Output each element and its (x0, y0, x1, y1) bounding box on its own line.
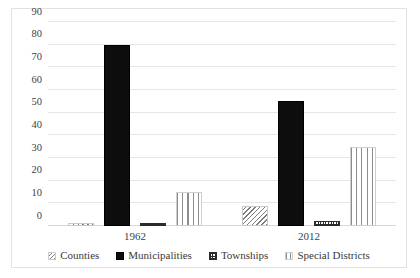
x-axis-label-1962: 1962 (124, 231, 146, 242)
y-axis-tick-label: 40 (32, 119, 43, 130)
bar-group-2012 (222, 22, 396, 226)
bar-municipalities-1962 (104, 45, 130, 226)
y-axis-tick-label: 80 (32, 29, 43, 40)
legend-label: Townships (221, 250, 269, 261)
legend-item-counties[interactable]: Counties (48, 250, 99, 261)
legend-swatch-municipalities-icon (116, 252, 124, 260)
chart-legend: CountiesMunicipalitiesTownshipsSpecial D… (12, 250, 406, 261)
y-axis-tick-label: 90 (32, 6, 43, 17)
bar-counties-1962 (68, 223, 94, 226)
bar-special-districts-2012 (350, 147, 376, 226)
bar-townships-2012 (314, 221, 340, 226)
y-axis-tick-label: 20 (32, 165, 43, 176)
bar-special-districts-1962 (176, 192, 202, 226)
y-axis-tick-label: 30 (32, 142, 43, 153)
y-axis-tick-label: 0 (37, 210, 42, 221)
bar-group-1962 (48, 22, 222, 226)
y-axis-tick-label: 70 (32, 51, 43, 62)
plot-area: 0102030405060708090 (48, 22, 396, 226)
x-axis-label-2012: 2012 (298, 231, 320, 242)
legend-label: Special Districts (297, 250, 369, 261)
y-axis-tick-label: 10 (32, 187, 43, 198)
chart-container: 0102030405060708090 19622012 CountiesMun… (11, 8, 407, 268)
legend-item-special-districts[interactable]: Special Districts (285, 250, 369, 261)
legend-swatch-counties-icon (48, 252, 56, 260)
y-axis-tick-label: 50 (32, 97, 43, 108)
legend-swatch-special-districts-icon (285, 252, 293, 260)
legend-item-townships[interactable]: Townships (209, 250, 269, 261)
legend-label: Municipalities (128, 250, 192, 261)
legend-item-municipalities[interactable]: Municipalities (116, 250, 192, 261)
bar-municipalities-2012 (278, 101, 304, 226)
legend-swatch-townships-icon (209, 252, 217, 260)
y-axis-tick-label: 60 (32, 74, 43, 85)
bar-townships-1962 (140, 223, 166, 226)
bar-counties-2012 (242, 206, 268, 226)
legend-label: Counties (60, 250, 99, 261)
